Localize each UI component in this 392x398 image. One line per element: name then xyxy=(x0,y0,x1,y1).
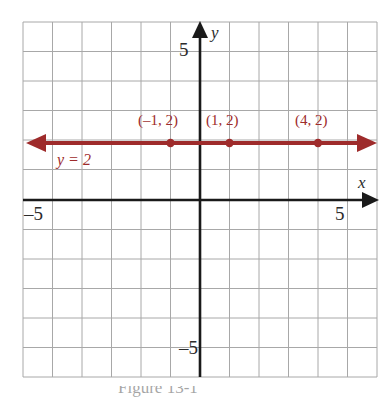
point-label-neg1-2: (–1, 2) xyxy=(138,113,178,128)
x-axis-label: x xyxy=(358,174,366,191)
line-arrow-right xyxy=(357,134,377,152)
figure-caption: Figure 13-1 xyxy=(118,386,198,398)
x-tick-label-minus5: –5 xyxy=(24,204,43,223)
point-1-2 xyxy=(225,139,233,147)
y-tick-label-minus5: –5 xyxy=(179,338,198,357)
point-label-1-2: (1, 2) xyxy=(206,113,239,128)
line-equation-label: y = 2 xyxy=(57,152,91,168)
figure-caption-strip: Figure 13-1 xyxy=(0,386,392,398)
point-neg1-2 xyxy=(166,139,174,147)
point-4-2 xyxy=(314,139,322,147)
line-y-equals-2 xyxy=(26,134,377,152)
y-axis-label: y xyxy=(211,24,219,41)
point-label-4-2: (4, 2) xyxy=(295,113,328,128)
line-arrow-left xyxy=(26,134,46,152)
y-tick-label-5: 5 xyxy=(179,40,189,59)
x-tick-label-5: 5 xyxy=(335,204,345,223)
coordinate-plane-figure: 5 –5 –5 5 y x (–1, 2) (1, 2) (4, 2) y = … xyxy=(0,0,392,398)
